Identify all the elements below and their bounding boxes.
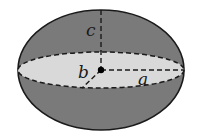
- label-c: c: [86, 20, 96, 40]
- label-a: a: [138, 69, 148, 89]
- ellipsoid-figure: c b a: [0, 0, 197, 140]
- center-point: [98, 67, 104, 73]
- ellipsoid-diagram: c b a: [0, 0, 197, 140]
- label-b: b: [78, 62, 89, 82]
